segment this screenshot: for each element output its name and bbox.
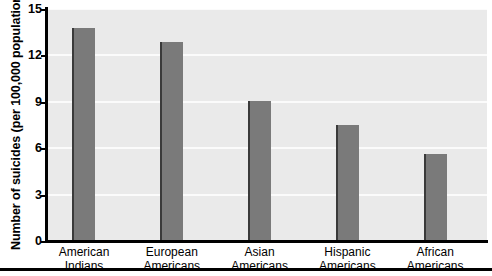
bar bbox=[72, 28, 95, 241]
y-axis-line bbox=[45, 7, 48, 243]
gridline bbox=[48, 9, 487, 10]
x-axis-category-label: AfricanAmericans bbox=[391, 246, 479, 273]
y-axis-tick-label: 9 bbox=[2, 96, 42, 108]
category-label-line-2: Americans bbox=[128, 260, 216, 274]
y-axis-tick-label: 15 bbox=[2, 3, 42, 15]
bar bbox=[160, 42, 183, 241]
plot-area bbox=[48, 9, 487, 241]
bar bbox=[248, 101, 271, 241]
gridline bbox=[48, 54, 487, 56]
category-label-line-1: Asian bbox=[216, 246, 304, 260]
y-axis-tick-label: 6 bbox=[2, 142, 42, 154]
x-axis-category-label: AsianAmericans bbox=[216, 246, 304, 273]
category-label-line-2: Americans bbox=[303, 260, 391, 274]
bar bbox=[336, 125, 359, 241]
y-axis-tick-label: 0 bbox=[2, 235, 42, 247]
bar bbox=[424, 154, 447, 241]
x-axis-line bbox=[45, 240, 488, 243]
category-label-line-1: Hispanic bbox=[303, 246, 391, 260]
bar-chart-figure: Number of suicides (per 100,000 populati… bbox=[0, 0, 492, 276]
x-axis-category-label: HispanicAmericans bbox=[303, 246, 391, 273]
y-axis-tick-label: 12 bbox=[2, 49, 42, 61]
y-axis-tick-labels: 03691215 bbox=[0, 0, 42, 276]
x-axis-category-label: EuropeanAmericans bbox=[128, 246, 216, 273]
x-axis-category-label: AmericanIndians bbox=[40, 246, 128, 273]
category-label-line-2: Americans bbox=[216, 260, 304, 274]
category-label-line-1: European bbox=[128, 246, 216, 260]
category-label-line-1: African bbox=[391, 246, 479, 260]
category-label-line-2: Indians bbox=[40, 260, 128, 274]
category-label-line-2: Americans bbox=[391, 260, 479, 274]
y-axis-tick-label: 3 bbox=[2, 189, 42, 201]
category-label-line-1: American bbox=[40, 246, 128, 260]
